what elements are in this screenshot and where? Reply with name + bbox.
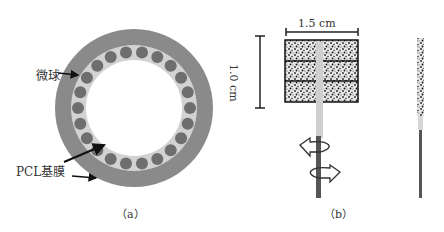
pcl-membrane-label: PCL基膜 bbox=[16, 162, 65, 179]
microsphere bbox=[74, 86, 86, 98]
microsphere bbox=[136, 157, 148, 169]
microsphere-label: 微球 bbox=[36, 66, 60, 83]
microsphere bbox=[151, 153, 163, 165]
microsphere bbox=[74, 118, 86, 130]
height-dimension-label: 1.0 cm bbox=[227, 64, 240, 102]
lumen bbox=[86, 60, 182, 156]
microsphere bbox=[136, 47, 148, 59]
microsphere bbox=[182, 86, 194, 98]
microsphere bbox=[165, 144, 177, 156]
microsphere bbox=[175, 72, 187, 84]
microsphere bbox=[184, 102, 196, 114]
microsphere bbox=[81, 72, 93, 84]
caption-a: （a） bbox=[116, 205, 145, 221]
ring-cross-section bbox=[55, 29, 213, 187]
microsphere bbox=[120, 157, 132, 169]
width-dimension-label: 1.5 cm bbox=[298, 17, 336, 30]
microsphere bbox=[81, 132, 93, 144]
scaffold-sheet bbox=[285, 40, 358, 138]
rod-light bbox=[316, 42, 323, 138]
microsphere bbox=[165, 60, 177, 72]
microsphere bbox=[175, 132, 187, 144]
microsphere bbox=[105, 153, 117, 165]
microsphere bbox=[91, 60, 103, 72]
rod-dark bbox=[316, 136, 321, 198]
microsphere bbox=[105, 51, 117, 63]
height-scale-bar bbox=[255, 36, 265, 108]
rolled-scaffold bbox=[417, 38, 424, 198]
figure-canvas bbox=[0, 0, 444, 232]
pcl-arrow-outer bbox=[72, 176, 96, 178]
microsphere bbox=[72, 102, 84, 114]
microsphere bbox=[182, 118, 194, 130]
microsphere bbox=[120, 47, 132, 59]
microsphere bbox=[151, 51, 163, 63]
caption-b: （b） bbox=[324, 205, 353, 221]
